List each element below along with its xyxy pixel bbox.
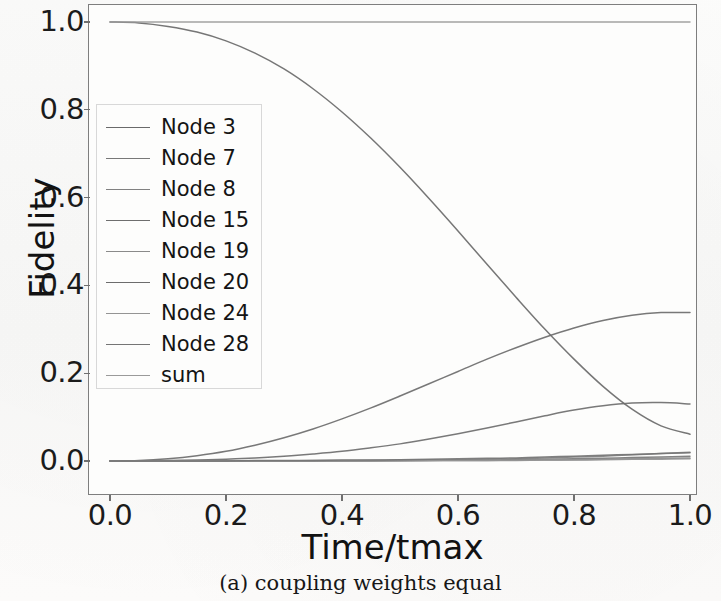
series-line [110, 403, 690, 461]
x-tick-mark [341, 495, 342, 501]
x-tick-mark [109, 495, 110, 501]
x-tick-mark [457, 495, 458, 501]
figure-panel: 0.00.20.40.60.81.0 0.00.20.40.60.81.0 Fi… [0, 0, 721, 601]
legend-line-swatch [106, 344, 150, 345]
legend-item: sum [97, 360, 261, 391]
y-tick-mark [84, 197, 90, 198]
legend-label: Node 15 [161, 210, 249, 231]
legend-line-swatch [106, 127, 150, 128]
legend-line-swatch [106, 220, 150, 221]
legend-line-swatch [106, 375, 150, 376]
legend-line-swatch [106, 158, 150, 159]
y-tick-label: 0.0 [10, 446, 84, 475]
legend-line-swatch [106, 251, 150, 252]
x-tick-mark [689, 495, 690, 501]
x-axis-label: Time/tmax [88, 527, 697, 567]
legend-line-swatch [106, 189, 150, 190]
legend-label: Node 20 [161, 272, 249, 293]
legend-item: Node 3 [97, 112, 261, 143]
figure-caption: (a) coupling weights equal [0, 571, 721, 595]
y-axis-label: Fidelity [22, 108, 62, 368]
y-tick-mark [84, 21, 90, 22]
legend-label: Node 24 [161, 303, 249, 324]
legend-label: Node 28 [161, 334, 249, 355]
y-tick-label: 1.0 [10, 7, 84, 36]
legend-item: Node 19 [97, 236, 261, 267]
chart-legend: Node 3Node 7Node 8Node 15Node 19Node 20N… [96, 104, 262, 389]
y-tick-mark [84, 373, 90, 374]
legend-label: Node 8 [161, 179, 236, 200]
legend-item: Node 7 [97, 143, 261, 174]
legend-item: Node 24 [97, 298, 261, 329]
y-tick-mark [84, 109, 90, 110]
x-tick-mark [573, 495, 574, 501]
legend-line-swatch [106, 282, 150, 283]
legend-label: Node 7 [161, 148, 236, 169]
legend-label: sum [161, 365, 206, 386]
y-tick-mark [84, 460, 90, 461]
legend-item: Node 20 [97, 267, 261, 298]
legend-item: Node 28 [97, 329, 261, 360]
legend-label: Node 3 [161, 117, 236, 138]
legend-item: Node 8 [97, 174, 261, 205]
legend-line-swatch [106, 313, 150, 314]
x-tick-mark [225, 495, 226, 501]
legend-label: Node 19 [161, 241, 249, 262]
legend-item: Node 15 [97, 205, 261, 236]
y-tick-mark [84, 285, 90, 286]
